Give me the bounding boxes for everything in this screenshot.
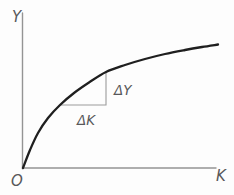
delta-y-label: ΔY (113, 82, 133, 98)
delta-k-label: ΔK (76, 112, 96, 128)
x-axis-label: K (216, 167, 227, 185)
diagram-canvas: Y K O ΔK ΔY (0, 0, 234, 195)
production-function-diagram: Y K O ΔK ΔY (0, 0, 234, 195)
y-axis-label: Y (12, 8, 23, 26)
origin-label: O (11, 172, 23, 190)
production-curve (23, 45, 218, 169)
